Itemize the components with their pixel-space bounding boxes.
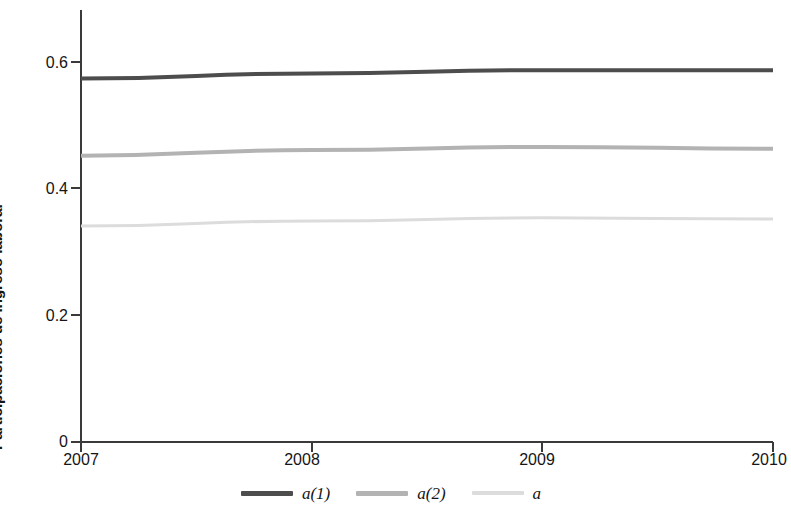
y-axis-title: Participaciones de ingreso laboral xyxy=(6,30,32,450)
legend-swatch-a1 xyxy=(241,491,293,496)
series-line-a2 xyxy=(81,147,773,156)
y-tick-label-0: 0 xyxy=(28,434,68,450)
plot-area xyxy=(0,0,782,470)
series-line-a xyxy=(81,218,773,226)
x-tick-label-2009: 2009 xyxy=(497,452,577,468)
data-series-layer xyxy=(81,70,773,226)
y-axis-title-text: Participaciones de ingreso laboral xyxy=(0,204,6,450)
legend-swatch-a2 xyxy=(356,491,408,496)
y-tick-label-0.4: 0.4 xyxy=(28,181,68,197)
legend-label-a1: a(1) xyxy=(302,485,330,502)
legend-label-a: a xyxy=(533,485,542,502)
y-tick-label-0.6: 0.6 xyxy=(28,55,68,71)
chart-legend: a(1) a(2) a xyxy=(0,478,782,508)
x-tick-marks xyxy=(81,442,773,452)
legend-label-a2: a(2) xyxy=(417,485,445,502)
x-tick-label-2007: 2007 xyxy=(41,452,121,468)
legend-item-a1: a(1) xyxy=(241,485,330,502)
y-tick-label-0.2: 0.2 xyxy=(28,308,68,324)
x-tick-label-2008: 2008 xyxy=(262,452,342,468)
x-tick-label-2010: 2010 xyxy=(729,452,791,468)
legend-item-a: a xyxy=(472,485,542,502)
legend-item-a2: a(2) xyxy=(356,485,445,502)
series-line-a1 xyxy=(81,70,773,78)
legend-swatch-a xyxy=(472,491,524,495)
y-tick-marks xyxy=(71,62,81,442)
